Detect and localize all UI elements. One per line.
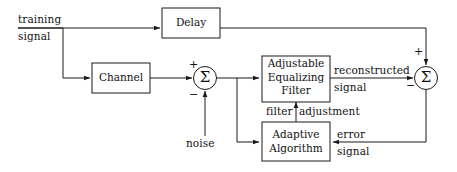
summer-right-plus-sign: + [414, 46, 423, 57]
filter-adjustment-label-part2: adjustment [299, 105, 360, 117]
reconstructed-signal-label-line2: signal [334, 81, 366, 93]
training-signal-label-line2: signal [18, 30, 50, 42]
block-equalizing-filter-label-line3: Filter [262, 84, 330, 98]
diagram-vector-layer [0, 0, 457, 172]
block-adaptive-algorithm-label-line2: Algorithm [262, 142, 330, 156]
wire-left-summer-branch-to-adaptive [237, 78, 259, 142]
block-delay-label: Delay [162, 16, 220, 30]
summer-left-sigma-symbol: Σ [193, 70, 217, 85]
block-adaptive-algorithm-label-line1: Adaptive [262, 128, 330, 142]
reconstructed-signal-label-line1: reconstructed [334, 64, 410, 76]
block-equalizing-filter-label-line2: Equalizing [262, 71, 330, 85]
summer-right-minus-sign: − [406, 80, 415, 91]
error-signal-label-line2: signal [337, 145, 369, 157]
error-signal-label-line1: error [337, 128, 365, 140]
block-equalizing-filter-label-line1: Adjustable [262, 57, 330, 71]
training-signal-label-line1: training [18, 13, 61, 25]
summer-left-plus-sign: + [189, 59, 198, 70]
noise-label: noise [186, 137, 215, 149]
summer-right-sigma-symbol: Σ [414, 70, 438, 85]
filter-adjustment-label-part1: filter [266, 105, 293, 117]
block-channel-label: Channel [92, 71, 150, 85]
summer-left-minus-sign: − [189, 89, 198, 100]
block-diagram-canvas: Delay Channel Adjustable Equalizing Filt… [0, 0, 457, 172]
